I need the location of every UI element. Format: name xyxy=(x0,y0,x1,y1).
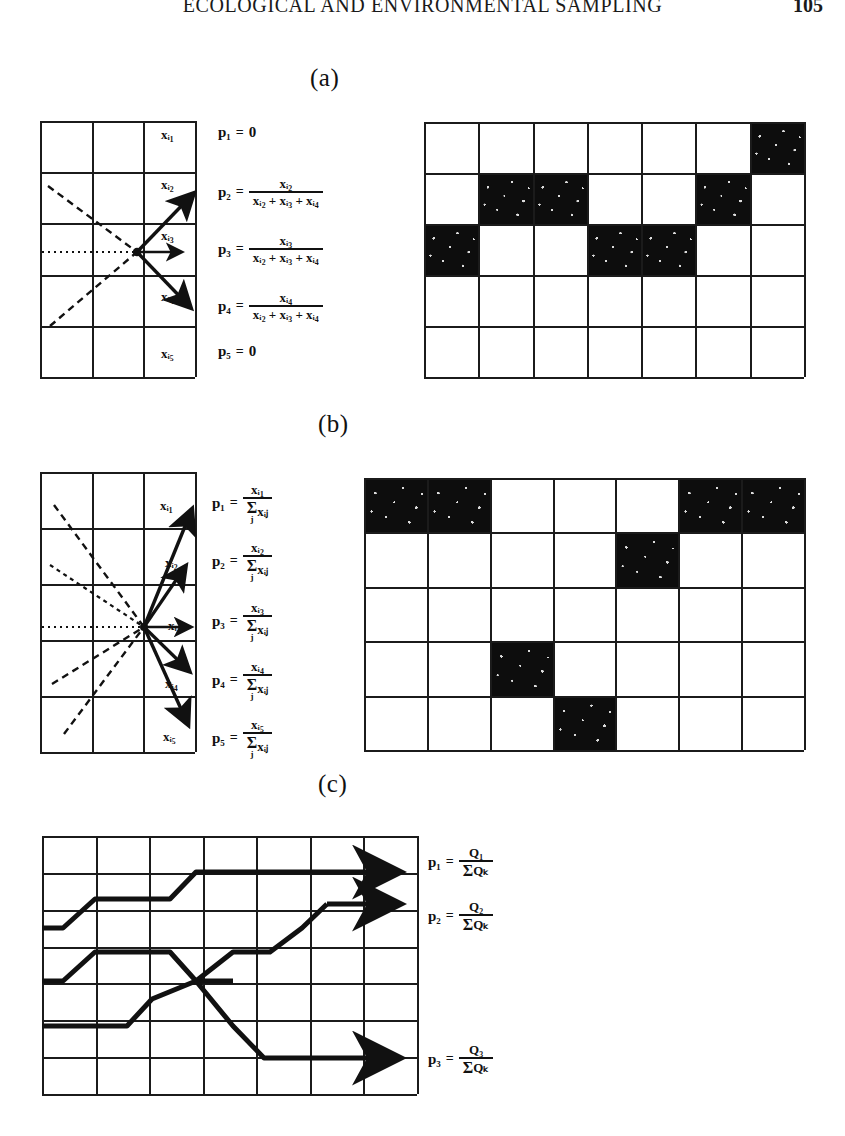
p-label: p₂ xyxy=(212,553,225,570)
panel-b-right-grid xyxy=(364,478,804,750)
p-label: p₂ xyxy=(428,908,441,925)
equals-sign: = xyxy=(230,613,238,629)
panel-a-left-hline xyxy=(40,377,195,379)
equals-sign: = xyxy=(230,553,238,569)
sigma-glyph: Σ xyxy=(247,558,257,573)
panel-b-right-filled-cell xyxy=(490,641,553,695)
summation-symbol: Σ j xyxy=(247,500,257,524)
p-label: p₂ xyxy=(218,184,231,201)
sigma-glyph: Σ xyxy=(463,1060,473,1075)
summation-symbol: Σ j xyxy=(247,735,257,759)
numerator: xᵢ₂ xyxy=(275,177,296,191)
sum-term: Qₖ xyxy=(473,1061,489,1074)
fraction: xᵢ₅ Σ j xᵢⱼ xyxy=(243,718,272,759)
panel-b-right-vline xyxy=(741,478,743,750)
panel-a-right-grid xyxy=(424,122,804,377)
sum-term: xᵢⱼ xyxy=(257,740,268,753)
panel-a-formula-2: p₂ = xᵢ₂ xᵢ₂ + xᵢ₃ + xᵢ₄ xyxy=(218,177,323,207)
equals-sign: = xyxy=(446,854,454,870)
denominator: Σ j xᵢⱼ xyxy=(243,617,272,642)
numerator: xᵢ₃ xyxy=(275,234,296,248)
fraction: xᵢ₃ Σ j xᵢⱼ xyxy=(243,601,272,642)
numerator: xᵢ₂ xyxy=(247,541,268,555)
panel-b-right-filled-cell xyxy=(364,478,427,532)
panel-a-right-hline xyxy=(424,224,804,226)
panel-b-right-filled-cell xyxy=(553,696,616,750)
fraction: Q₁ Σ Qₖ xyxy=(459,846,494,878)
numerator: xᵢ₁ xyxy=(247,483,268,497)
equals-sign: = xyxy=(446,1051,454,1067)
summation-symbol: Σ j xyxy=(247,618,257,642)
panel-b-right-vline xyxy=(804,478,806,750)
numerator: Q₃ xyxy=(465,1043,487,1057)
panel-b-right-hline xyxy=(364,641,804,643)
equals-sign: = xyxy=(230,730,238,746)
p-label: p₁ xyxy=(428,854,441,871)
sigma-glyph: Σ xyxy=(247,618,257,633)
panel-b-right-vline xyxy=(490,478,492,750)
sum-term: Qₖ xyxy=(473,918,489,931)
panel-b-right-vline xyxy=(553,478,555,750)
panel-b-cell-label-1: xᵢ₁ xyxy=(160,498,173,514)
denominator: Σ j xᵢⱼ xyxy=(243,676,272,701)
fraction: xᵢ₁ Σ j xᵢⱼ xyxy=(243,483,272,524)
sum-index: j xyxy=(251,515,254,524)
panel-label-c: (c) xyxy=(318,770,347,798)
panel-c-flow-lines xyxy=(42,836,462,1094)
p-label: p₃ xyxy=(212,613,225,630)
panel-a-cell-label-1: xᵢ₁ xyxy=(161,127,174,143)
p-label: p₃ xyxy=(428,1051,441,1068)
p-label: p₄ xyxy=(218,298,231,315)
fraction: xᵢ₄ xᵢ₂ + xᵢ₃ + xᵢ₄ xyxy=(249,291,323,321)
summation-symbol: Σ xyxy=(463,863,473,878)
panel-a-right-hline xyxy=(424,122,804,124)
panel-b-cell-label-4: xᵢ₄ xyxy=(165,676,178,692)
panel-b-formula-3: p₃ = xᵢ₃ Σ j xᵢⱼ xyxy=(212,601,272,642)
panel-b-right-hline xyxy=(364,587,804,589)
panel-a-right-hline xyxy=(424,173,804,175)
sum-index: j xyxy=(251,750,254,759)
equals-sign: = xyxy=(230,495,238,511)
panel-a-formula-3: p₃ = xᵢ₃ xᵢ₂ + xᵢ₃ + xᵢ₄ xyxy=(218,234,323,264)
numerator: xᵢ₅ xyxy=(247,718,268,732)
panel-label-a: (a) xyxy=(310,64,339,92)
sum-index: j xyxy=(251,692,254,701)
equals-sign: = xyxy=(236,184,244,200)
equals-sign: = xyxy=(230,672,238,688)
denominator: xᵢ₂ + xᵢ₃ + xᵢ₄ xyxy=(249,307,323,321)
page-number: 105 xyxy=(793,0,823,17)
summation-symbol: Σ j xyxy=(247,677,257,701)
sigma-glyph: Σ xyxy=(247,677,257,692)
p-label: p₃ xyxy=(218,241,231,258)
p-label: p₁ xyxy=(218,124,231,141)
panel-a-right-vline xyxy=(478,122,480,377)
panel-b-formula-2: p₂ = xᵢ₂ Σ j xᵢⱼ xyxy=(212,541,272,582)
equals-sign: = xyxy=(236,241,244,257)
panel-a-right-hline xyxy=(424,275,804,277)
panel-a-right-vline xyxy=(641,122,643,377)
fraction: xᵢ₂ xᵢ₂ + xᵢ₃ + xᵢ₄ xyxy=(249,177,323,207)
panel-a-right-hline xyxy=(424,377,804,379)
panel-c-hline xyxy=(42,1094,417,1096)
panel-a-formula-1: p₁ = 0 xyxy=(218,124,256,141)
panel-a-right-filled-cell xyxy=(641,224,695,275)
numerator: Q₁ xyxy=(465,846,487,860)
fraction: xᵢ₄ Σ j xᵢⱼ xyxy=(243,660,272,701)
fraction: Q₃ Σ Qₖ xyxy=(459,1043,494,1075)
fraction: Q₂ Σ Qₖ xyxy=(459,900,494,932)
equals-sign: = xyxy=(236,298,244,314)
sigma-glyph: Σ xyxy=(463,863,473,878)
fraction: xᵢ₃ xᵢ₂ + xᵢ₃ + xᵢ₄ xyxy=(249,234,323,264)
denominator: Σ j xᵢⱼ xyxy=(243,499,272,524)
panel-a-right-filled-cell xyxy=(424,224,478,275)
panel-label-b: (b) xyxy=(318,410,349,438)
sigma-glyph: Σ xyxy=(463,917,473,932)
panel-a-right-vline xyxy=(424,122,426,377)
panel-a-right-filled-cell xyxy=(533,173,587,224)
panel-b-cell-label-2: xᵢ₂ xyxy=(165,555,178,571)
denominator: Σ Qₖ xyxy=(459,916,494,932)
panel-b-right-hline xyxy=(364,478,804,480)
panel-c-formula-2: p₂ = Q₂ Σ Qₖ xyxy=(428,900,493,932)
panel-b-right-vline xyxy=(678,478,680,750)
sum-term: xᵢⱼ xyxy=(257,623,268,636)
